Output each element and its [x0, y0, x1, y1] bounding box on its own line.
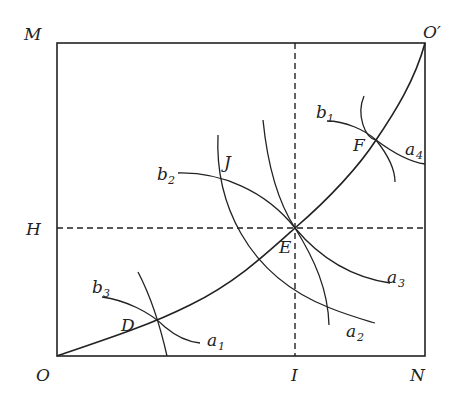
label-N: N	[409, 365, 426, 385]
label-J: J	[221, 152, 232, 172]
arc-through-D	[138, 272, 167, 356]
construction-diagram: M O′ H O I N D E F J b 1 b 2 b 3 a 1 a 2…	[0, 0, 461, 401]
label-H: H	[25, 219, 42, 239]
arc-through-E	[263, 120, 329, 325]
svg-text:a: a	[207, 330, 217, 350]
svg-text:4: 4	[415, 149, 423, 162]
svg-text:a: a	[346, 321, 356, 341]
label-b3: b 3	[92, 277, 110, 300]
bounding-rectangle	[57, 43, 425, 356]
svg-text:b: b	[316, 102, 327, 122]
svg-text:3: 3	[398, 277, 405, 290]
label-F: F	[352, 135, 366, 155]
svg-text:a: a	[387, 267, 397, 287]
label-b2: b 2	[157, 164, 175, 187]
svg-text:b: b	[92, 277, 103, 297]
arc-through-F	[361, 96, 395, 182]
label-b1: b 1	[316, 102, 334, 125]
label-a3: a 3	[387, 267, 405, 290]
svg-text:1: 1	[327, 112, 334, 125]
label-O: O	[36, 365, 50, 385]
label-E: E	[278, 237, 292, 257]
svg-text:2: 2	[167, 174, 175, 187]
label-O-prime: O′	[423, 22, 441, 42]
svg-text:3: 3	[103, 287, 110, 300]
label-D: D	[120, 315, 135, 335]
svg-text:a: a	[405, 139, 415, 159]
label-a4: a 4	[405, 139, 423, 162]
svg-text:b: b	[157, 164, 168, 184]
label-a1: a 1	[207, 330, 225, 353]
label-M: M	[23, 24, 42, 44]
main-curve	[57, 43, 425, 356]
label-a2: a 2	[346, 321, 364, 344]
svg-text:2: 2	[356, 331, 364, 344]
svg-text:1: 1	[218, 340, 225, 353]
label-I: I	[290, 365, 298, 385]
